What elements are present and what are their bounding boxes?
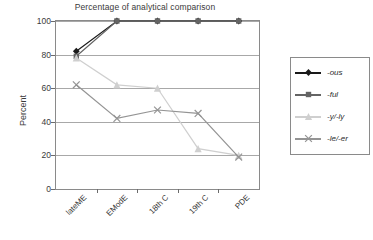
data-point-marker bbox=[195, 18, 200, 23]
legend-marker-icon bbox=[304, 90, 312, 98]
legend-label: -ful bbox=[327, 88, 338, 101]
legend-item[interactable]: -ful bbox=[295, 88, 369, 102]
series-plot bbox=[56, 21, 259, 189]
chart-title: Percentage of analytical comparison bbox=[0, 2, 290, 12]
legend-item[interactable]: -le/-er bbox=[295, 132, 369, 146]
x-axis-tick-mark bbox=[97, 189, 98, 193]
data-point-marker bbox=[236, 18, 241, 23]
plot-area bbox=[55, 20, 260, 190]
y-axis-tick-label: 60 bbox=[25, 84, 51, 92]
legend-label: -ous bbox=[327, 66, 343, 79]
data-point-marker bbox=[73, 81, 80, 88]
legend-marker-icon bbox=[304, 112, 312, 120]
y-axis-tick-label: 40 bbox=[25, 118, 51, 126]
y-axis-tick-label: 20 bbox=[25, 151, 51, 159]
series-yly bbox=[73, 54, 243, 159]
y-axis-tick-label: 80 bbox=[25, 51, 51, 59]
legend-marker-icon bbox=[304, 134, 312, 142]
legend-label: -y/-ly bbox=[327, 110, 344, 123]
x-axis-tick-mark bbox=[137, 189, 138, 193]
data-point-marker bbox=[114, 18, 119, 23]
x-axis-tick-label: 19th C bbox=[180, 193, 210, 223]
x-axis-tick-label: 18th C bbox=[139, 193, 169, 223]
x-axis-tick-mark bbox=[178, 189, 179, 193]
x-axis-tick-label: PDE bbox=[221, 193, 251, 223]
chart-legend: -ous-ful-y/-ly-le/-er bbox=[290, 57, 370, 155]
x-axis-tick-label: lateME bbox=[58, 193, 88, 223]
x-axis-tick-mark bbox=[218, 189, 219, 193]
y-axis-tick-label: 0 bbox=[25, 185, 51, 193]
legend-marker-icon bbox=[304, 68, 312, 76]
series-ful bbox=[74, 18, 242, 59]
legend-item[interactable]: -ous bbox=[295, 66, 369, 80]
chart-container: Percentage of analytical comparison Perc… bbox=[0, 0, 373, 240]
series-leer bbox=[73, 81, 242, 160]
x-axis-tick-label: EModE bbox=[99, 193, 129, 223]
legend-label: -le/-er bbox=[327, 132, 348, 145]
data-point-marker bbox=[155, 18, 160, 23]
legend-item[interactable]: -y/-ly bbox=[295, 110, 369, 124]
y-axis-tick-label: 100 bbox=[25, 17, 51, 25]
